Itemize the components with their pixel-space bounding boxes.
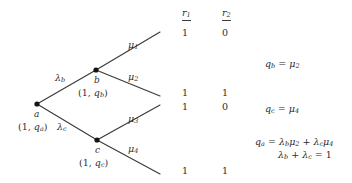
table-row-3-r2: 0	[220, 102, 230, 112]
branch-label-mu4: μ4	[128, 144, 138, 155]
branch-label-mu2: μ2	[128, 72, 138, 83]
table-row-1-r2: 0	[220, 28, 230, 38]
equation-qc: qc = μ4	[265, 103, 299, 115]
equation-qb: qb = μ2	[265, 58, 300, 70]
node-c-label: c	[95, 146, 100, 155]
node-b-pair: (1, qb)	[78, 88, 108, 99]
branch-label-mu3: μ3	[128, 114, 138, 125]
edge-label-lambda-b: λb	[55, 73, 65, 84]
table-row-3-r1: 1	[180, 102, 190, 112]
probability-tree-figure: a (1, qa) b (1, qb) c (1, qc) λb λc μ1 μ…	[0, 0, 352, 183]
table-row-2-r1: 1	[180, 88, 190, 98]
table-row-4-r2: 1	[220, 166, 230, 176]
equation-lambda-sum: λb + λc = 1	[278, 149, 332, 161]
node-c-dot	[94, 137, 99, 142]
node-a-dot	[34, 101, 39, 106]
node-b-dot	[93, 67, 98, 72]
branch-label-mu1: μ1	[128, 40, 138, 51]
table-row-4-r1: 1	[180, 166, 190, 176]
table-header-r1: r1	[182, 8, 191, 21]
table-row-1-r1: 1	[180, 28, 190, 38]
branch-b-mu1	[96, 32, 160, 70]
node-c-pair: (1, qc)	[79, 158, 108, 169]
table-header-r2: r2	[222, 8, 231, 21]
node-a-label: a	[34, 110, 39, 119]
equation-qa: qa = λbμ2 + λcμ4	[255, 136, 333, 148]
node-a-pair: (1, qa)	[18, 122, 47, 133]
edge-label-lambda-c: λc	[57, 122, 67, 133]
node-b-label: b	[94, 76, 100, 85]
table-row-2-r2: 1	[220, 88, 230, 98]
